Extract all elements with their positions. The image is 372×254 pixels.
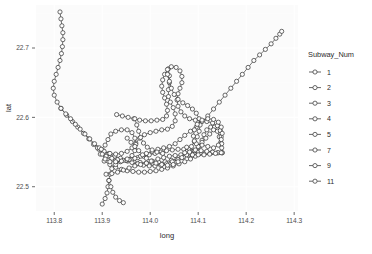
y-tick-label: 22.6 [16, 114, 29, 121]
legend-item-label: 7 [327, 147, 331, 154]
legend-item-label: 4 [327, 115, 331, 122]
chart-container: 113.8113.9114.0114.1114.2114.322.522.622… [0, 0, 372, 254]
legend-item-label: 11 [327, 178, 334, 185]
x-tick-label: 114.0 [142, 217, 158, 224]
legend-item-label: 5 [327, 131, 331, 138]
x-tick-label: 114.2 [238, 217, 254, 224]
x-tick-label: 113.8 [46, 217, 62, 224]
y-tick-label: 22.7 [16, 44, 29, 51]
x-tick-label: 113.9 [94, 217, 110, 224]
x-axis-title: long [160, 231, 174, 240]
x-tick-label: 114.3 [286, 217, 302, 224]
legend-item-label: 3 [327, 100, 331, 107]
legend-title: Subway_Num [308, 50, 354, 59]
plot-svg: 113.8113.9114.0114.1114.2114.322.522.622… [0, 0, 372, 254]
legend-item-label: 2 [327, 84, 331, 91]
y-tick-label: 22.5 [16, 183, 29, 190]
x-tick-label: 114.1 [190, 217, 206, 224]
legend-item-label: 9 [327, 162, 331, 169]
legend-item-label: 1 [327, 69, 331, 76]
y-axis-title: lat [4, 103, 13, 112]
